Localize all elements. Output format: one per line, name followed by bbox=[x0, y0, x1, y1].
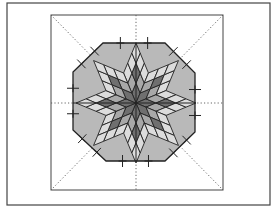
quilt-diagram bbox=[0, 0, 273, 210]
quilt-block-drawing bbox=[0, 0, 273, 210]
